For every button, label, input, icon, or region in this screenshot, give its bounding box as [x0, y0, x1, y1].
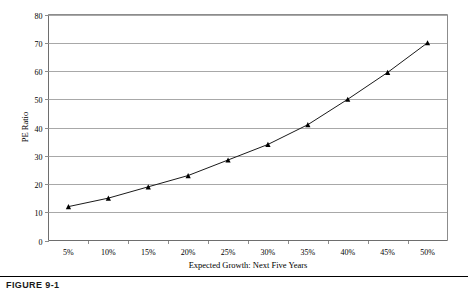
y-axis-title: PE Ratio [20, 112, 30, 142]
figure-container: 01020304050607080 5%10%15%20%25%30%35%40… [0, 0, 468, 292]
y-axis-tick-labels-group: 01020304050607080 [35, 12, 43, 247]
x-axis-tick-label: 40% [340, 248, 355, 257]
pe-ratio-growth-line-chart: 01020304050607080 5%10%15%20%25%30%35%40… [0, 0, 468, 276]
x-axis-tick-label: 10% [101, 248, 116, 257]
y-axis-tick-label: 60 [35, 68, 43, 77]
y-axis-tick-label: 20 [35, 181, 43, 190]
figure-caption-bar: FIGURE 9-1 [0, 276, 468, 292]
plot-background [49, 15, 448, 241]
x-axis-tick-label: 5% [63, 248, 74, 257]
x-axis-title: Expected Growth: Next Five Years [189, 260, 308, 270]
x-axis-tick-label: 30% [261, 248, 276, 257]
x-axis-tick-label: 20% [181, 248, 196, 257]
y-axis-tick-label: 80 [35, 12, 43, 21]
y-axis-tick-label: 70 [35, 40, 43, 49]
x-axis-tick-label: 45% [380, 248, 395, 257]
x-axis-tick-label: 15% [141, 248, 156, 257]
x-axis-tick-label: 50% [420, 248, 435, 257]
x-axis-tick-label: 35% [301, 248, 316, 257]
caption-divider [0, 276, 468, 277]
x-axis-tick-label: 25% [221, 248, 236, 257]
y-axis-tick-label: 50 [35, 96, 43, 105]
y-axis-tick-label: 40 [35, 125, 43, 134]
y-axis-ticks-group [45, 16, 49, 242]
y-axis-tick-label: 0 [39, 238, 43, 247]
x-axis-tick-labels-group: 5%10%15%20%25%30%35%40%45%50% [63, 248, 435, 257]
y-axis-tick-label: 10 [35, 209, 43, 218]
figure-caption-label: FIGURE 9-1 [6, 280, 60, 290]
y-axis-tick-label: 30 [35, 153, 43, 162]
x-axis-ticks-group [89, 241, 409, 245]
